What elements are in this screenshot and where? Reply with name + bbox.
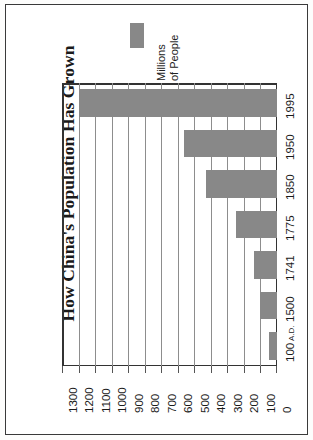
category-axis-label-1741: 1741 (284, 256, 296, 282)
gridline-900 (128, 83, 129, 366)
plot-area (62, 83, 277, 366)
category-axis-label-1850: 1850 (284, 175, 296, 201)
tick-1100 (95, 366, 96, 373)
gridline-700 (161, 83, 162, 366)
value-axis-label-1000: 1000 (116, 387, 128, 413)
chart-frame-border: How China's Population Has Grown Million… (5, 4, 308, 435)
tick-1300 (62, 366, 63, 373)
value-axis-label-1100: 1100 (100, 388, 112, 413)
tick-1200 (79, 366, 80, 373)
tick-200 (244, 366, 245, 373)
category-axis-label-1500: 1500 (284, 296, 296, 322)
tick-800 (145, 366, 146, 373)
gridline-400 (211, 83, 212, 366)
tick-900 (128, 366, 129, 373)
bar-1850 (206, 170, 277, 197)
chart-page: How China's Population Has Grown Million… (0, 0, 313, 440)
gridline-300 (227, 83, 228, 366)
bar-1995 (79, 89, 277, 116)
tick-100 (260, 366, 261, 373)
gridline-600 (178, 83, 179, 366)
gridline-1100 (95, 83, 96, 366)
gridline-500 (194, 83, 195, 366)
category-axis-label-100-A-D-: 100 A.D. (284, 325, 296, 362)
value-axis-label-900: 900 (133, 394, 145, 413)
tick-300 (227, 366, 228, 373)
category-axis-label-1950: 1950 (284, 134, 296, 160)
value-axis-labels: 1300120011001000900800700600500400300200… (46, 373, 296, 419)
legend-label-line-2: of People (168, 35, 180, 81)
tick-600 (178, 366, 179, 373)
bar-100-A-D- (269, 332, 277, 359)
value-axis-label-400: 400 (215, 394, 227, 413)
tick-400 (211, 366, 212, 373)
chart-legend: Millions of People (130, 19, 202, 81)
value-axis-label-600: 600 (182, 394, 194, 413)
value-axis-label-800: 800 (149, 394, 161, 413)
bar-1741 (254, 251, 277, 278)
gridline-1000 (112, 83, 113, 366)
bar-1500 (260, 292, 277, 319)
category-axis-label-1995: 1995 (284, 94, 296, 120)
legend-swatch-millions-of-people (130, 23, 144, 48)
value-axis-label-200: 200 (248, 394, 260, 413)
gridline-1300 (62, 83, 64, 366)
tick-700 (161, 366, 162, 373)
tick-500 (194, 366, 195, 373)
legend-label-group: Millions of People (144, 19, 206, 81)
category-axis-labels: 199519501850177517411500100 A.D. (280, 83, 313, 366)
tick-1000 (112, 366, 113, 373)
tick-0 (276, 366, 277, 373)
bar-1950 (184, 130, 277, 157)
bar-1775 (236, 211, 277, 238)
value-axis-label-0: 0 (281, 407, 293, 413)
value-axis-label-300: 300 (232, 394, 244, 413)
value-axis-label-500: 500 (199, 394, 211, 413)
value-axis-label-100: 100 (265, 394, 277, 413)
category-label-era-suffix: A.D. (287, 325, 296, 342)
gridline-1200 (79, 83, 80, 366)
category-axis-label-1775: 1775 (284, 215, 296, 241)
value-axis-label-1300: 1300 (67, 387, 79, 413)
value-axis-label-700: 700 (166, 394, 178, 413)
gridline-800 (145, 83, 146, 366)
legend-label-line-1: Millions (155, 44, 167, 81)
value-axis-label-1200: 1200 (83, 387, 95, 413)
